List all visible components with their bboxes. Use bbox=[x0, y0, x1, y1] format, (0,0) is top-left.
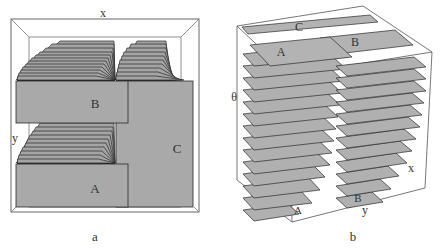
figure: B A C x y a bbox=[0, 0, 440, 249]
panel-a-x-axis-label: x bbox=[100, 6, 106, 20]
panel-a-region-a bbox=[16, 164, 128, 207]
panel-a-label-c: C bbox=[173, 141, 182, 156]
panel-a-stack-upper-left bbox=[17, 41, 115, 80]
panel-b-stack-right bbox=[336, 57, 426, 208]
panel-a-label-a: A bbox=[90, 181, 100, 196]
panel-b-caption: b bbox=[350, 229, 357, 244]
panel-b-label-a-bottom: A bbox=[294, 204, 302, 216]
panel-a-caption: a bbox=[92, 229, 98, 244]
panel-b-label-a: A bbox=[277, 45, 286, 59]
panel-b-label-b-bottom: B bbox=[354, 192, 361, 204]
panel-b-theta-axis-label: θ bbox=[231, 90, 237, 104]
panel-a-label-b: B bbox=[91, 96, 100, 111]
panel-b-label-b: B bbox=[351, 35, 359, 49]
panel-a-y-axis-label: y bbox=[12, 131, 18, 145]
panel-a-stack-lower bbox=[17, 123, 115, 163]
panel-a-stack-upper-right bbox=[116, 41, 184, 80]
panel-b: C B A B A θ x y b bbox=[231, 6, 432, 244]
panel-b-label-c: C bbox=[295, 20, 303, 34]
panel-b-x-axis-label: x bbox=[408, 161, 414, 175]
panel-a-region-b bbox=[16, 81, 128, 123]
panel-b-sheet-c bbox=[242, 15, 378, 34]
panel-b-stack-left bbox=[243, 44, 348, 221]
panel-b-y-axis-label: y bbox=[362, 203, 368, 217]
panel-a: B A C x y a bbox=[11, 6, 199, 244]
